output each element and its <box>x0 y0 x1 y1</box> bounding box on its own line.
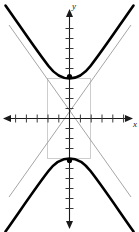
x-axis <box>3 115 133 123</box>
y-axis-label: y <box>71 1 76 11</box>
hyperbola-figure: y x <box>0 0 139 232</box>
x-axis-arrow-right <box>125 115 133 122</box>
x-axis-arrow-left <box>3 115 11 122</box>
graph-canvas: y x <box>0 0 139 232</box>
y-axis-arrow-down <box>66 221 73 229</box>
vertex-dot-lower <box>67 158 72 163</box>
x-axis-label: x <box>132 119 137 129</box>
vertex-dot-upper <box>67 74 72 79</box>
